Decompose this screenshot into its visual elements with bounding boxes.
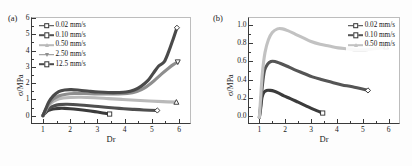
y-tick-label: 0.2	[237, 94, 246, 102]
x-tick-label: 1	[257, 126, 261, 134]
y-tick-label: 1.0	[237, 21, 246, 29]
y-tick	[249, 80, 253, 81]
legend-label: 0.50 mm/s	[365, 41, 395, 48]
y-tick-label: 0.8	[237, 40, 246, 48]
y-tick	[32, 83, 36, 84]
legend-marker-icon	[39, 50, 54, 59]
y-tick	[32, 51, 36, 52]
y-tick	[249, 98, 253, 99]
x-tick-label: 1	[41, 126, 45, 134]
x-tick	[70, 119, 71, 123]
y-tick-label: 0	[26, 112, 30, 120]
legend-label: 0.50 mm/s	[56, 41, 86, 48]
x-tick	[337, 119, 338, 123]
curve-endpoint-marker	[174, 100, 179, 105]
x-tick	[285, 119, 286, 123]
y-tick	[32, 18, 36, 19]
y-tick	[249, 25, 253, 26]
y-tick-minor	[32, 75, 34, 76]
y-tick	[32, 116, 36, 117]
y-tick-label: 1	[26, 96, 30, 104]
x-tick	[97, 119, 98, 123]
x-tick-label: 5	[361, 126, 365, 134]
legend-item[interactable]: 0.02 mm/s	[348, 21, 395, 31]
figure-container: (a) σ/MPa Dr 0.02 mm/s0.10 mm/s0.50 mm/s…	[0, 0, 412, 166]
x-tick	[389, 119, 390, 123]
legend-marker-icon	[348, 21, 363, 30]
y-tick	[32, 67, 36, 68]
legend-marker-icon	[348, 31, 363, 40]
legend-item[interactable]: 0.10 mm/s	[348, 31, 395, 41]
x-tick-minor	[165, 121, 166, 123]
y-tick-label: 4	[26, 47, 30, 55]
legend-item[interactable]: 2.50 mm/s	[39, 50, 86, 60]
legend-label: 0.02 mm/s	[56, 22, 86, 29]
x-tick-minor	[324, 121, 325, 123]
legend-marker-icon	[39, 21, 54, 30]
panel-b-y-axis-label: σ/MPa	[226, 74, 235, 96]
panel-a-legend: 0.02 mm/s0.10 mm/s0.50 mm/s2.50 mm/s12.5…	[37, 20, 88, 70]
x-tick-minor	[272, 121, 273, 123]
y-tick	[32, 34, 36, 35]
x-tick	[125, 119, 126, 123]
x-tick	[259, 119, 260, 123]
legend-marker-icon	[39, 31, 54, 40]
data-curve	[43, 108, 110, 115]
data-curve	[259, 90, 322, 117]
x-tick-label: 5	[150, 126, 154, 134]
legend-item[interactable]: 0.02 mm/s	[39, 21, 86, 31]
y-tick-minor	[249, 71, 251, 72]
y-tick	[249, 43, 253, 44]
x-tick-label: 6	[387, 126, 391, 134]
panel-a-plot-area: Dr 0.02 mm/s0.10 mm/s0.50 mm/s2.50 mm/s1…	[31, 17, 191, 124]
x-tick-label: 4	[123, 126, 127, 134]
panel-b-plot-area: Dr 0.02 mm/s0.10 mm/s0.50 mm/s 0.00.20.4…	[248, 17, 400, 124]
panel-b-tag: (b)	[213, 13, 223, 23]
y-tick-minor	[249, 34, 251, 35]
y-tick-label: 5	[26, 31, 30, 39]
legend-item[interactable]: 0.50 mm/s	[39, 40, 86, 50]
y-tick-minor	[32, 108, 34, 109]
legend-item[interactable]: 12.5 mm/s	[39, 59, 86, 69]
panel-a-tag: (a)	[8, 13, 17, 23]
y-tick-minor	[32, 91, 34, 92]
y-tick-label: 0.4	[237, 76, 246, 84]
y-tick-minor	[32, 59, 34, 60]
x-tick	[43, 119, 44, 123]
y-tick-minor	[249, 89, 251, 90]
legend-marker-icon	[39, 60, 54, 69]
legend-item[interactable]: 0.50 mm/s	[348, 40, 395, 50]
x-tick	[363, 119, 364, 123]
x-tick	[179, 119, 180, 123]
x-tick-minor	[350, 121, 351, 123]
panel-a-y-axis-label: σ/MPa	[16, 74, 25, 96]
y-tick-minor	[32, 42, 34, 43]
curve-endpoint-marker	[108, 112, 112, 116]
legend-label: 0.10 mm/s	[56, 32, 86, 39]
legend-label: 2.50 mm/s	[56, 51, 86, 58]
legend-item[interactable]: 0.10 mm/s	[39, 31, 86, 41]
y-tick	[249, 116, 253, 117]
panel-b-legend: 0.02 mm/s0.10 mm/s0.50 mm/s	[346, 20, 397, 51]
x-tick	[311, 119, 312, 123]
y-tick	[249, 61, 253, 62]
x-tick-label: 2	[283, 126, 287, 134]
x-tick-minor	[111, 121, 112, 123]
y-tick-minor	[249, 52, 251, 53]
x-tick	[152, 119, 153, 123]
y-tick-minor	[32, 26, 34, 27]
x-tick-label: 6	[177, 126, 181, 134]
x-tick-minor	[57, 121, 58, 123]
x-tick-label: 2	[68, 126, 72, 134]
x-tick-minor	[298, 121, 299, 123]
x-tick-minor	[84, 121, 85, 123]
legend-label: 0.10 mm/s	[365, 32, 395, 39]
x-tick-minor	[138, 121, 139, 123]
y-tick-label: 6	[26, 14, 30, 22]
panel-a-x-axis-label: Dr	[32, 134, 190, 144]
x-tick-label: 3	[96, 126, 100, 134]
y-tick-minor	[249, 107, 251, 108]
legend-label: 0.02 mm/s	[365, 22, 395, 29]
legend-label: 12.5 mm/s	[56, 61, 86, 68]
x-tick-label: 4	[335, 126, 339, 134]
